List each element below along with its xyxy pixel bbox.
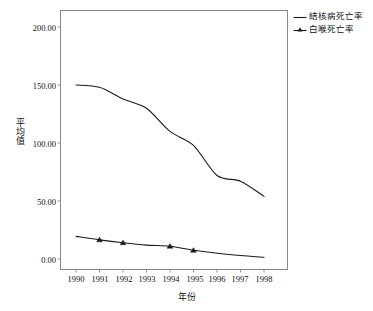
legend-item-tuberculosis[interactable]: 结核病死亡率	[293, 9, 371, 20]
line-triangle-key-icon	[293, 22, 307, 33]
legend-label-diphtheria: 白喉死亡率	[309, 22, 354, 34]
chart-legend: 结核病死亡率 白喉死亡率	[293, 9, 371, 35]
chart-root: 200.00 150.00 100.00 50.00 0.00 平均值 1990…	[0, 0, 373, 311]
legend-label-tuberculosis: 结核病死亡率	[309, 9, 363, 21]
line-key-icon	[293, 9, 307, 20]
chart-canvas	[0, 0, 373, 311]
series-line-tuberculosis	[76, 85, 264, 196]
legend-item-diphtheria[interactable]: 白喉死亡率	[293, 22, 371, 33]
tick-marks	[58, 27, 265, 273]
